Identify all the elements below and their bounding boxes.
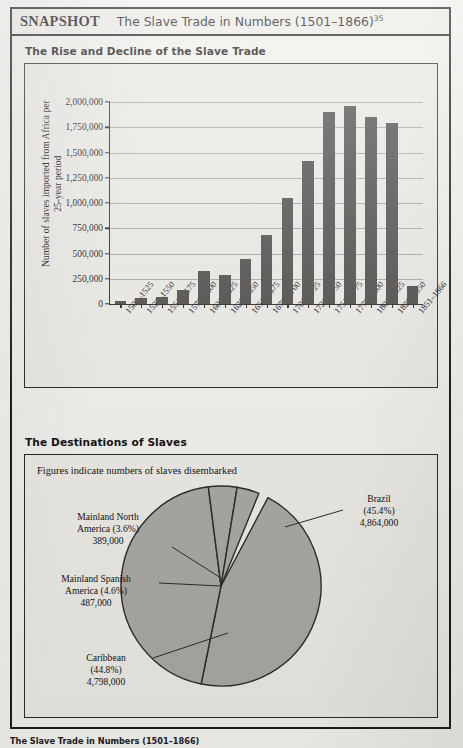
- bar-y-tick-mark: [105, 278, 110, 279]
- bar: [386, 123, 398, 304]
- bar-x-tick-mark: [392, 304, 393, 308]
- bar: [407, 286, 419, 304]
- bar: [344, 106, 356, 304]
- bar-x-tick-mark: [287, 304, 288, 308]
- bar-y-tick-label: 1,750,000: [66, 122, 104, 132]
- snapshot-header: SNAPSHOT The Slave Trade in Numbers (150…: [12, 9, 449, 36]
- pie-label-carib-name: Caribbean: [51, 652, 161, 664]
- bar-x-tick-mark: [246, 304, 247, 308]
- bar-x-tick-mark: [371, 304, 372, 308]
- pie-label-mna-value: 389,000: [41, 535, 175, 547]
- pie-label-brazil-name: Brazil: [331, 493, 427, 505]
- bar: [198, 271, 210, 304]
- pie-label-carib-percent: (44.8%): [51, 664, 161, 676]
- bar: [323, 112, 335, 304]
- bar-y-tick-mark: [105, 177, 110, 178]
- bar-x-tick-mark: [225, 304, 226, 308]
- pie-label-brazil-value: 4,864,000: [331, 517, 427, 529]
- pie-label-caribbean: Caribbean (44.8%) 4,798,000: [51, 652, 161, 688]
- pie-label-brazil: Brazil (45.4%) 4,864,000: [331, 493, 427, 529]
- bar-plot-area: 0250,000500,000750,0001,000,0001,250,000…: [109, 102, 423, 305]
- snapshot-box: SNAPSHOT The Slave Trade in Numbers (150…: [10, 7, 451, 729]
- snapshot-title-footnote: 35: [374, 14, 384, 23]
- bar-y-tick-label: 750,000: [73, 223, 103, 233]
- bar-x-tick-mark: [350, 304, 351, 308]
- bar-y-tick-mark: [105, 127, 110, 128]
- bar-y-tick-label: 1,000,000: [66, 198, 104, 208]
- bar-section-heading: The Rise and Decline of the Slave Trade: [25, 45, 266, 57]
- bar: [365, 117, 377, 304]
- snapshot-tag: SNAPSHOT: [20, 13, 100, 30]
- bar: [177, 290, 189, 304]
- bar-y-tick-mark: [105, 303, 110, 304]
- scanned-page: SNAPSHOT The Slave Trade in Numbers (150…: [0, 0, 463, 748]
- bar-y-tick-label: 1,500,000: [66, 148, 104, 158]
- bar: [156, 297, 168, 304]
- bar: [219, 275, 231, 304]
- bar-gridline: [110, 102, 423, 103]
- pie-label-msa-line2: America (4.6%): [29, 585, 163, 597]
- bar-x-tick-mark: [183, 304, 184, 308]
- pie-label-brazil-percent: (45.4%): [331, 505, 427, 517]
- pie-label-mainland-spanish-america: Mainland Spanish America (4.6%) 487,000: [29, 573, 163, 609]
- pie-label-mna-line1: Mainland North: [41, 511, 175, 523]
- bar-x-tick-mark: [204, 304, 205, 308]
- bar-x-tick-mark: [329, 304, 330, 308]
- bar-y-tick-mark: [105, 253, 110, 254]
- pie-section-heading: The Destinations of Slaves: [25, 436, 187, 448]
- bar-y-axis-title: Number of slaves imported from Africa pe…: [40, 94, 63, 274]
- snapshot-title-text: The Slave Trade in Numbers (1501–1866): [117, 14, 374, 29]
- bar-y-tick-label: 0: [98, 299, 103, 309]
- bar-y-tick-mark: [105, 202, 110, 203]
- bar-y-tick-label: 1,250,000: [66, 173, 104, 183]
- pie-label-mainland-north-america: Mainland North America (3.6%) 389,000: [41, 511, 175, 547]
- bar-x-tick-mark: [413, 304, 414, 308]
- bar-y-tick-mark: [105, 101, 110, 102]
- bar-y-tick-mark: [105, 152, 110, 153]
- bar-chart-panel: Number of slaves imported from Africa pe…: [24, 63, 438, 388]
- bar-x-tick-mark: [162, 304, 163, 308]
- pie-label-mna-line2: America (3.6%): [41, 523, 175, 535]
- bar-y-tick-label: 250,000: [73, 274, 103, 284]
- pie-label-msa-line1: Mainland Spanish: [29, 573, 163, 585]
- bar-y-tick-mark: [105, 228, 110, 229]
- page-running-caption: The Slave Trade in Numbers (1501–1866): [10, 736, 199, 747]
- bar-x-tick-mark: [308, 304, 309, 308]
- bar: [240, 259, 252, 304]
- bar-y-tick-label: 500,000: [73, 249, 103, 259]
- pie-label-msa-value: 487,000: [29, 597, 163, 609]
- bar: [261, 235, 273, 304]
- bar-x-tick-mark: [120, 304, 121, 308]
- bar-plot-wrapper: Number of slaves imported from Africa pe…: [25, 64, 437, 387]
- bar-x-tick-mark: [141, 304, 142, 308]
- bar: [302, 161, 314, 304]
- bar-x-tick-mark: [267, 304, 268, 308]
- bar: [282, 198, 294, 304]
- bar-y-tick-label: 2,000,000: [66, 97, 104, 107]
- snapshot-title: The Slave Trade in Numbers (1501–1866)35: [117, 14, 384, 29]
- pie-label-carib-value: 4,798,000: [51, 676, 161, 688]
- pie-chart-panel: Figures indicate numbers of slaves disem…: [24, 454, 438, 718]
